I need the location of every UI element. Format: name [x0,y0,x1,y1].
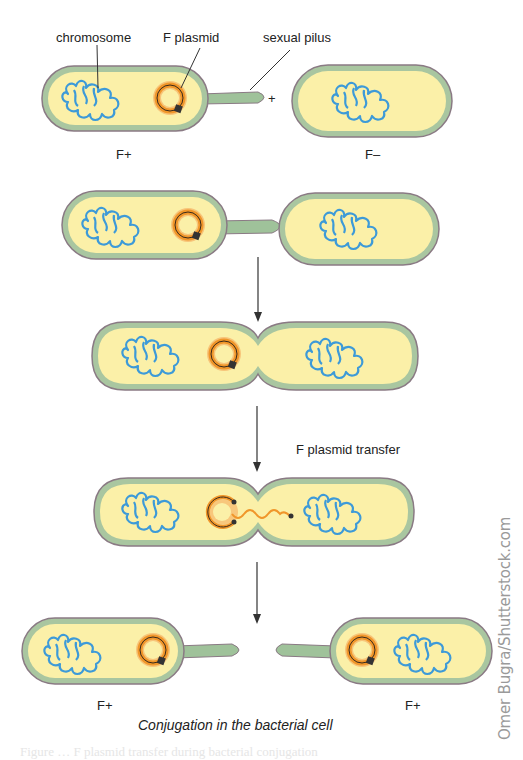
figure-caption: Conjugation in the bacterial cell [138,717,333,733]
arrow-down-icon [254,257,262,322]
f-plasmid-transfer-label: F plasmid transfer [296,442,401,457]
chromosome-label: chromosome [56,30,131,45]
faded-footer-text: Figure … F plasmid transfer during bacte… [20,744,318,760]
recipient-label: F– [365,147,381,162]
stage-2 [62,191,439,265]
stage-3 [92,322,418,390]
arrow-down-icon [253,562,261,624]
watermark: Omer Bugra/Shutterstock.com [496,517,514,740]
f-plasmid-icon [207,337,241,371]
donor-label: F+ [116,147,132,162]
sexual-pilus-label: sexual pilus [263,30,331,45]
f-plasmid-icon [345,633,379,667]
stage-5-right [276,618,492,684]
final-right-label: F+ [405,698,421,713]
final-left-label: F+ [97,698,113,713]
f-plasmid-icon [171,208,205,242]
f-plasmid-label: F plasmid [163,30,219,45]
stage-4 [94,478,414,546]
stage-5-left [22,618,239,684]
f-plasmid-icon [136,633,170,667]
arrow-down-icon [253,406,261,472]
stage-1: chromosome F plasmid sexual pilus + F+ F… [42,30,452,162]
plus-sign: + [268,91,276,106]
